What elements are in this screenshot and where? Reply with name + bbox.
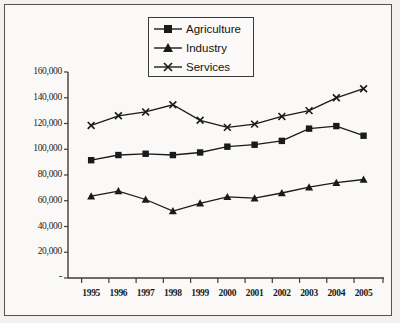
chart-legend: Agriculture Industry Services: [148, 17, 254, 77]
y-axis-tick-label: 140,000: [33, 92, 62, 102]
x-axis-tick-label: 1999: [185, 288, 215, 298]
data-point-square: [224, 143, 230, 149]
data-point-cross: [360, 85, 367, 92]
square-marker-icon: [153, 22, 183, 36]
x-axis-tick-label: 2001: [240, 288, 270, 298]
data-point-square: [142, 151, 148, 157]
x-axis-tick-label: 1995: [76, 288, 106, 298]
series-line: [91, 89, 363, 128]
legend-item-agriculture[interactable]: Agriculture: [153, 20, 241, 38]
legend-item-industry[interactable]: Industry: [153, 39, 227, 57]
x-axis-tick-label: 2002: [267, 288, 297, 298]
y-axis-tick-label: 160,000: [33, 66, 62, 76]
chart-series-layer: [87, 85, 367, 214]
data-point-cross: [88, 122, 95, 129]
y-axis-tick-label: 120,000: [33, 117, 62, 127]
x-axis-tick-label: 1998: [158, 288, 188, 298]
x-axis-ticks: [82, 278, 383, 283]
data-point-square: [306, 125, 312, 131]
data-point-square: [197, 149, 203, 155]
legend-label-industry: Industry: [186, 42, 227, 54]
series-services: [88, 85, 367, 130]
y-axis-tick-label: -: [59, 269, 62, 281]
series-line: [91, 126, 363, 160]
data-point-triangle: [360, 176, 368, 183]
cross-marker-icon: [153, 60, 183, 74]
data-point-cross: [333, 94, 340, 101]
x-axis-tick-label: 2004: [321, 288, 351, 298]
data-point-square: [88, 157, 94, 163]
data-point-triangle: [114, 187, 122, 194]
legend-item-services[interactable]: Services: [153, 58, 230, 76]
legend-label-services: Services: [186, 61, 230, 73]
x-axis-tick-label: 2003: [294, 288, 324, 298]
y-axis-tick-label: 100,000: [33, 143, 62, 153]
legend-label-agriculture: Agriculture: [186, 23, 241, 35]
y-axis-tick-label: 60,000: [38, 195, 62, 205]
x-axis-tick-label: 2000: [212, 288, 242, 298]
data-point-square: [170, 152, 176, 158]
data-point-square: [279, 138, 285, 144]
chart-axes: [64, 72, 384, 283]
y-axis-tick-label: 80,000: [38, 169, 62, 179]
y-axis-tick-label: 20,000: [38, 246, 62, 256]
x-axis-tick-label: 2005: [349, 288, 379, 298]
y-axis-tick-label: 40,000: [38, 220, 62, 230]
data-point-square: [115, 152, 121, 158]
data-point-square: [251, 142, 257, 148]
series-industry: [87, 176, 367, 215]
x-axis-tick-label: 1997: [131, 288, 161, 298]
x-axis-tick-label: 1996: [103, 288, 133, 298]
triangle-marker-icon: [153, 41, 183, 55]
series-agriculture: [88, 123, 367, 164]
data-point-square: [333, 123, 339, 129]
data-point-square: [360, 133, 366, 139]
